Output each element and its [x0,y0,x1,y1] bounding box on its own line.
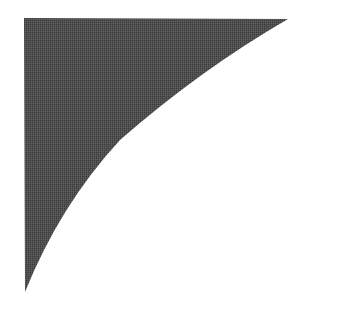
figure-canvas: Concave corner fillet silhouette [0,0,353,327]
corner-fillet-svg: Concave corner fillet silhouette [0,0,353,327]
